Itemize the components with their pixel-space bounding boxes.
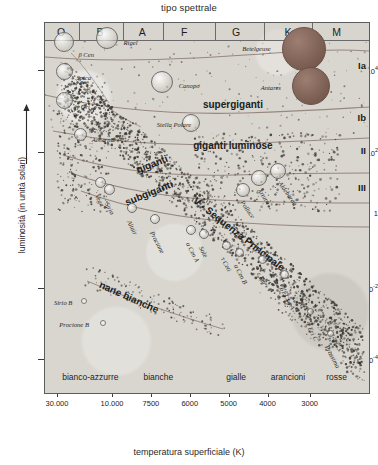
star-label: Aldebaran — [278, 180, 300, 207]
star-marker — [54, 32, 74, 52]
star-label: γ Ori — [76, 103, 89, 110]
star-marker — [199, 229, 209, 239]
region-label: giganti — [135, 152, 170, 174]
star-label: Procione B — [59, 321, 89, 328]
star-label: Polluce — [239, 199, 256, 220]
x-tick-label: 6000 — [181, 399, 198, 408]
star-marker — [236, 183, 250, 197]
region-label: giganti luminose — [193, 140, 272, 151]
star-marker — [251, 170, 267, 186]
luminosity-class-III: III — [358, 182, 366, 193]
spectral-divider-2 — [163, 23, 164, 40]
star-label: τ Ceti — [220, 256, 233, 273]
star-label: Procione — [149, 230, 166, 254]
hr-diagram-plot: OBAFGKM IaIbIIIII supergigantigiganti lu… — [44, 22, 370, 394]
star-label: Rigel — [124, 39, 138, 46]
x-tick-label: 10.000 — [101, 399, 124, 408]
star-label: Spica — [76, 74, 91, 81]
star-label: Sirio B — [54, 299, 73, 306]
x-tick-label: 3000 — [301, 399, 318, 408]
spectral-divider-0 — [79, 23, 80, 40]
x-tick-label: 5000 — [220, 399, 237, 408]
star-label: Stella Polare — [157, 121, 191, 128]
star-marker — [81, 298, 87, 304]
spectral-type-G: G — [220, 23, 252, 40]
star-label: Prossima — [324, 344, 342, 369]
region-label: nane bianche — [98, 279, 161, 315]
color-class-label: rosse — [298, 371, 370, 383]
spectral-type-M: M — [320, 23, 352, 40]
star-marker — [307, 308, 314, 315]
star-marker — [100, 320, 106, 326]
star-label: ε Eri C — [304, 322, 319, 342]
star-marker — [327, 330, 334, 337]
star-marker — [235, 248, 244, 257]
star-marker — [186, 225, 196, 235]
x-tick-label: 7500 — [143, 399, 160, 408]
star-label: Achernar — [92, 136, 117, 143]
luminosity-class-Ib: Ib — [358, 112, 366, 123]
star-marker — [96, 27, 118, 49]
x-axis-title: temperatura superficiale (K) — [0, 447, 378, 457]
star-label: Altair — [126, 219, 139, 236]
spectral-type-A: A — [126, 23, 158, 40]
star-marker — [270, 163, 286, 179]
spectral-divider-3 — [215, 23, 216, 40]
star-marker — [222, 241, 231, 250]
star-label: 61 Cyg A — [279, 286, 297, 311]
star-marker — [74, 128, 87, 141]
star-label: Sirio — [104, 201, 116, 216]
region-label: supergiganti — [203, 99, 263, 110]
star-marker — [280, 270, 289, 279]
star-marker — [282, 27, 326, 71]
x-tick-label: 4000 — [259, 399, 276, 408]
star-marker — [258, 255, 267, 264]
color-class-label: bianche — [120, 371, 198, 383]
top-axis-title: tipo spettrale — [0, 2, 378, 13]
star-label: Arturo — [256, 187, 272, 205]
star-marker — [56, 92, 73, 109]
x-tick-label: 30.000 — [45, 399, 68, 408]
star-marker — [150, 214, 160, 224]
luminosity-class-II: II — [361, 145, 366, 156]
star-label: Antares — [261, 84, 281, 91]
y-axis-arrow — [22, 104, 31, 166]
star-label: Betelgeuse — [242, 45, 271, 52]
star-marker — [127, 203, 137, 213]
star-marker — [151, 71, 173, 93]
star-label: α Cen B — [233, 263, 249, 285]
star-marker — [104, 184, 115, 195]
spectral-divider-4 — [264, 23, 265, 40]
spectral-divider-1 — [123, 23, 124, 40]
star-label: ε Eri — [256, 271, 268, 285]
color-class-label: bianco-azzurre — [51, 371, 129, 383]
star-label: α Cen A — [185, 241, 201, 263]
star-marker — [56, 63, 73, 80]
star-marker — [292, 67, 330, 105]
star-label: Canopo — [179, 82, 200, 89]
star-label: β Cen — [78, 51, 94, 58]
luminosity-class-Ia: Ia — [358, 60, 366, 71]
spectral-type-F: F — [168, 23, 200, 40]
